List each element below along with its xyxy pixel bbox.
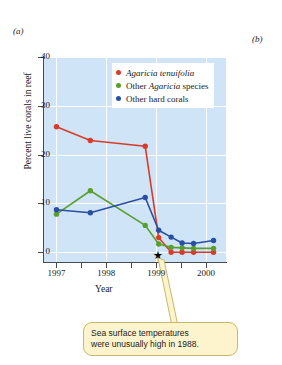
x-tick-label: 1999 <box>136 268 176 278</box>
data-point-marker <box>88 210 93 215</box>
x-tick-mark <box>131 263 132 268</box>
legend-dot-red <box>116 70 121 75</box>
y-tick-label: 40 <box>20 51 50 61</box>
data-point-marker <box>191 241 196 246</box>
y-tick-label: 10 <box>20 197 50 207</box>
y-tick-label: 0 <box>20 246 50 256</box>
data-point-marker <box>179 240 184 245</box>
callout-line-2: were unusually high in 1988. <box>91 339 230 350</box>
series-line <box>56 127 213 252</box>
legend-item-other-agaricia: Other Agaricia species <box>116 79 209 92</box>
x-tick-mark <box>181 263 182 268</box>
x-tick-label: 1998 <box>86 268 126 278</box>
legend-dot-green <box>116 83 121 88</box>
x-tick-mark <box>81 263 82 268</box>
chart-legend: Agaricia tenuifolia Other Agaricia speci… <box>112 63 214 108</box>
legend-item-agaricia-tenuifolia: Agaricia tenuifolia <box>116 66 209 79</box>
data-point-marker <box>88 188 93 193</box>
y-tick-label: 20 <box>20 149 50 159</box>
data-point-marker <box>168 234 173 239</box>
data-point-marker <box>156 235 161 240</box>
legend-label-other-hard-corals: Other hard corals <box>126 94 188 104</box>
data-point-marker <box>191 246 196 251</box>
data-point-marker <box>54 207 59 212</box>
x-tick-label: 1997 <box>36 268 76 278</box>
series-line <box>56 191 213 249</box>
x-tick-label: 2000 <box>186 268 226 278</box>
legend-label-agaricia-tenuifolia: Agaricia tenuifolia <box>126 68 194 78</box>
callout-box: Sea surface temperatures were unusually … <box>83 322 238 356</box>
data-point-marker <box>88 138 93 143</box>
data-point-marker <box>156 241 161 246</box>
data-point-marker <box>143 144 148 149</box>
y-tick-label: 30 <box>20 100 50 110</box>
legend-dot-blue <box>116 96 121 101</box>
figure-panel-a: (a) (b) Percent live corals in reef Year… <box>0 0 282 365</box>
data-point-marker <box>211 246 216 251</box>
callout-line-1: Sea surface temperatures <box>91 328 230 339</box>
data-point-marker <box>179 245 184 250</box>
series-line <box>56 198 213 244</box>
legend-item-other-hard-corals: Other hard corals <box>116 92 209 105</box>
data-point-marker <box>168 250 173 255</box>
data-point-marker <box>156 228 161 233</box>
data-point-marker <box>211 238 216 243</box>
data-point-marker <box>54 124 59 129</box>
data-point-marker <box>143 195 148 200</box>
legend-label-other-agaricia: Other Agaricia species <box>126 81 209 91</box>
data-point-marker <box>168 245 173 250</box>
data-point-marker <box>143 223 148 228</box>
